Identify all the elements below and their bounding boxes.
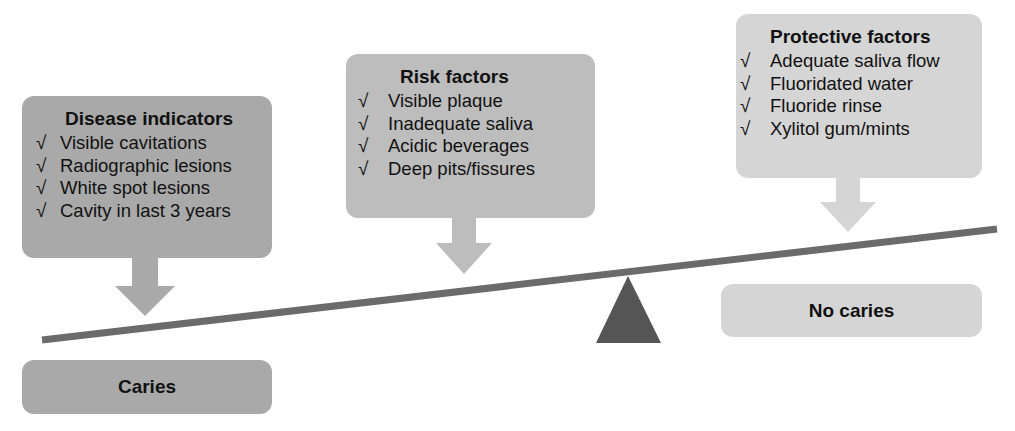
no-caries-outcome-box: No caries [721,284,982,337]
checkmark-icon: √ [36,155,60,178]
checkmark-icon: √ [36,132,60,155]
disease-indicators-title: Disease indicators [36,108,262,130]
list-item: √Inadequate saliva [358,113,585,136]
arrow-protective-down-icon [820,176,876,232]
list-item: √Visible plaque [358,90,585,113]
arrow-risk-down-icon [436,216,492,274]
list-item: √Adequate saliva flow [740,50,972,73]
list-item: √Fluoridated water [740,73,972,96]
list-item: √Deep pits/fissures [358,158,585,181]
risk-factors-title: Risk factors [358,66,585,88]
caries-outcome-box: Caries [22,360,272,414]
protective-factors-box: Protective factors √Adequate saliva flow… [736,14,982,178]
list-item: √Acidic beverages [358,135,585,158]
list-item: √White spot lesions [36,177,262,200]
checkmark-icon: √ [358,158,388,181]
checkmark-icon: √ [36,200,60,223]
checkmark-icon: √ [358,135,388,158]
list-item: √Visible cavitations [36,132,262,155]
checkmark-icon: √ [358,90,388,113]
list-item: √Xylitol gum/mints [740,118,972,141]
arrow-disease-down-icon [115,256,175,316]
checkmark-icon: √ [740,50,770,73]
fulcrum-triangle-icon [596,276,661,343]
list-item: √Fluoride rinse [740,95,972,118]
list-item: √Radiographic lesions [36,155,262,178]
disease-indicators-box: Disease indicators √Visible cavitations … [22,96,272,258]
no-caries-label: No caries [809,300,895,322]
risk-factors-box: Risk factors √Visible plaque √Inadequate… [346,54,595,218]
caries-label: Caries [118,376,176,398]
checkmark-icon: √ [358,113,388,136]
checkmark-icon: √ [740,95,770,118]
checkmark-icon: √ [36,177,60,200]
checkmark-icon: √ [740,118,770,141]
checkmark-icon: √ [740,73,770,96]
list-item: √Cavity in last 3 years [36,200,262,223]
protective-factors-title: Protective factors [740,26,972,48]
